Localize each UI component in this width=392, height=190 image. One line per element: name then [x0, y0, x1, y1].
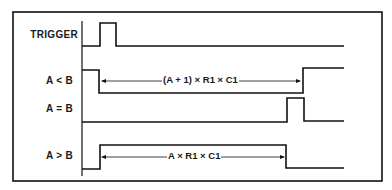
- trigger-waveform: [82, 23, 344, 46]
- signal-label-a-equal-b: A = B: [3, 103, 73, 114]
- arrowhead-left-icon: [101, 155, 106, 159]
- arrowhead-right-icon: [296, 79, 301, 83]
- signal-label-a-less-b: A < B: [3, 75, 73, 86]
- arrowhead-left-icon: [101, 79, 106, 83]
- signal-label-a-greater-b: A > B: [3, 150, 73, 161]
- a-equal-b-waveform: [82, 98, 344, 122]
- arrowhead-right-icon: [280, 155, 285, 159]
- a-less-b-interval-label: (A + 1) × R1 × C1: [162, 74, 239, 85]
- a-greater-b-interval-label: A × R1 × C1: [167, 150, 221, 161]
- signal-label-trigger: TRIGGER: [8, 29, 78, 40]
